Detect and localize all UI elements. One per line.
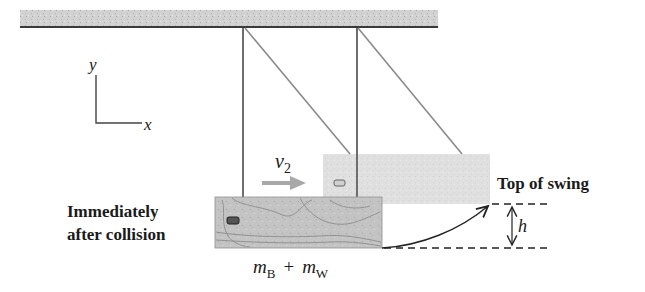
bullet-top-icon <box>334 180 345 186</box>
top-of-swing-label: Top of swing <box>497 174 589 193</box>
strings-diagonal <box>245 28 462 154</box>
height-label: h <box>518 216 527 236</box>
velocity-arrow: v2 <box>262 150 306 190</box>
string-diagonal-right <box>358 28 462 154</box>
block-bottom-body <box>215 197 382 248</box>
mass-label: mB+mW <box>253 256 329 281</box>
block-after-collision <box>215 197 382 248</box>
swing-path-arrow <box>382 206 488 248</box>
block-top-body <box>323 154 490 204</box>
axes-lines <box>96 75 142 123</box>
velocity-arrow-head-icon <box>290 176 306 190</box>
x-axis-label: x <box>143 115 152 134</box>
height-indicator: h <box>384 204 550 248</box>
string-diagonal-left <box>245 28 350 154</box>
ceiling <box>20 10 438 27</box>
ballistic-pendulum-diagram: y x v2 <box>0 0 645 292</box>
coordinate-axes: y x <box>87 55 152 134</box>
immediately-label-line2: after collision <box>67 225 166 244</box>
block-top-of-swing <box>323 154 490 204</box>
y-axis-label: y <box>87 55 97 74</box>
bullet-embedded-icon <box>227 217 239 224</box>
ceiling-hatch <box>20 10 438 26</box>
velocity-label: v2 <box>275 150 291 176</box>
immediately-label-line1: Immediately <box>67 202 159 221</box>
